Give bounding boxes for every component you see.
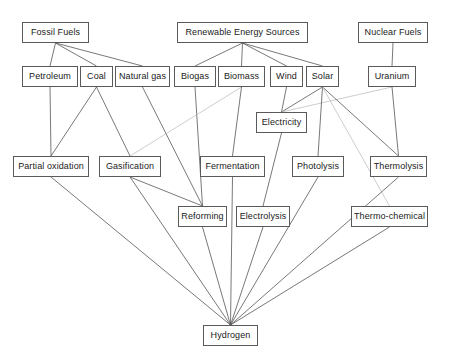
- node-reforming[interactable]: Reforming: [178, 206, 227, 227]
- node-uranium[interactable]: Uranium: [368, 66, 416, 87]
- node-coal[interactable]: Coal: [80, 66, 113, 87]
- node-fossil_fuels[interactable]: Fossil Fuels: [22, 22, 89, 43]
- node-nuclear_fuels[interactable]: Nuclear Fuels: [358, 22, 428, 43]
- node-biogas[interactable]: Biogas: [174, 66, 216, 87]
- node-electrolysis[interactable]: Electrolysis: [236, 206, 290, 227]
- hydrogen-pathways-diagram: Fossil FuelsRenewable Energy SourcesNucl…: [0, 0, 449, 360]
- node-hydrogen[interactable]: Hydrogen: [203, 325, 258, 346]
- node-electricity[interactable]: Electricity: [256, 112, 307, 133]
- node-biomass[interactable]: Biomass: [218, 66, 265, 87]
- node-partial_oxidation[interactable]: Partial oxidation: [13, 156, 89, 177]
- node-layer: Fossil FuelsRenewable Energy SourcesNucl…: [0, 0, 449, 360]
- node-fermentation[interactable]: Fermentation: [200, 156, 265, 177]
- node-photolysis[interactable]: Photolysis: [292, 156, 344, 177]
- node-renewable_sources[interactable]: Renewable Energy Sources: [177, 22, 308, 43]
- node-thermo_chemical[interactable]: Thermo-chemical: [351, 206, 428, 227]
- node-gasification[interactable]: Gasification: [99, 156, 161, 177]
- node-natural_gas[interactable]: Natural gas: [115, 66, 170, 87]
- node-thermolysis[interactable]: Thermolysis: [370, 156, 427, 177]
- node-wind[interactable]: Wind: [270, 66, 303, 87]
- node-petroleum[interactable]: Petroleum: [22, 66, 78, 87]
- node-solar[interactable]: Solar: [306, 66, 339, 87]
